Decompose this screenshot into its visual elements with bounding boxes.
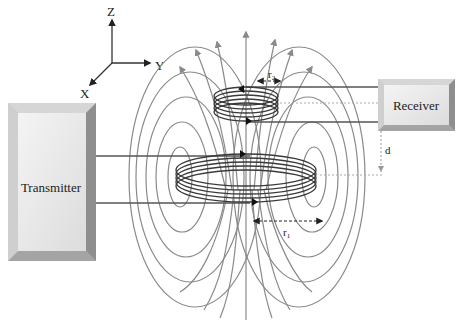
d-label: d	[385, 144, 391, 156]
svg-text:r2: r2	[268, 68, 276, 82]
svg-text:r1: r1	[283, 226, 291, 240]
current-arrow-icon	[252, 198, 258, 206]
transmitter-label: Transmitter	[21, 180, 82, 195]
transmitter-box: Transmitter	[8, 103, 96, 261]
axes: Z Y X	[80, 4, 165, 101]
diagram-canvas: Z Y X	[0, 0, 461, 331]
axis-x-label: X	[80, 86, 90, 101]
receiver-coil	[214, 85, 278, 125]
current-arrow-icon	[246, 117, 252, 125]
receiver-label: Receiver	[393, 98, 440, 113]
receiver-box: Receiver	[378, 79, 455, 131]
axis-z-label: Z	[107, 4, 115, 19]
wpt-diagram: Z Y X	[0, 0, 461, 331]
